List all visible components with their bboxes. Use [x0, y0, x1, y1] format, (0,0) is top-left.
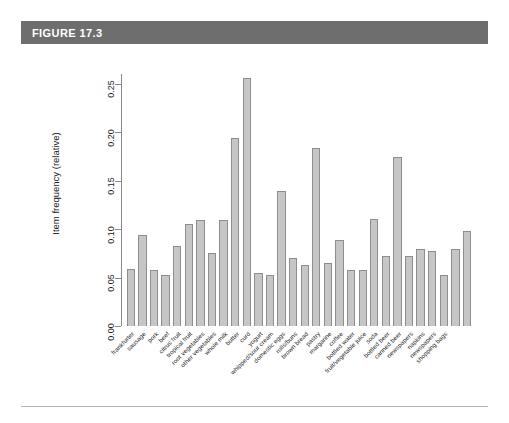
bar-slot: [171, 74, 183, 326]
plot-region: Item frequency (relative) 0.000.050.100.…: [21, 50, 488, 390]
x-label-slot: [461, 328, 473, 390]
bar[interactable]: [185, 224, 193, 326]
y-axis-tick-label: 0.10: [106, 226, 116, 244]
bar[interactable]: [428, 251, 436, 326]
bar-slot: [380, 74, 392, 326]
bar[interactable]: [243, 78, 251, 326]
bar-slot: [415, 74, 427, 326]
bar[interactable]: [405, 256, 413, 326]
bar[interactable]: [138, 235, 146, 326]
figure-header-bar: FIGURE 17.3: [21, 21, 488, 44]
x-label-slot: shopping bags: [438, 328, 450, 390]
bar-slot: [368, 74, 380, 326]
y-axis-line: [121, 74, 122, 326]
bar-slot: [334, 74, 346, 326]
bar[interactable]: [301, 265, 309, 326]
x-axis-labels: frankfurtersausageporkbeefcitrus fruittr…: [125, 328, 473, 390]
bar[interactable]: [312, 148, 320, 326]
bar[interactable]: [266, 275, 274, 326]
bar-slot: [403, 74, 415, 326]
item-frequency-chart: Item frequency (relative) 0.000.050.100.…: [21, 50, 488, 390]
bar-series: [125, 74, 473, 326]
x-label-slot: [450, 328, 462, 390]
y-axis-tick: 0.00: [115, 326, 121, 327]
bar[interactable]: [196, 220, 204, 326]
bar[interactable]: [382, 256, 390, 326]
bar[interactable]: [231, 138, 239, 326]
bar[interactable]: [370, 219, 378, 326]
bar-slot: [299, 74, 311, 326]
bar-slot: [148, 74, 160, 326]
bar-slot: [183, 74, 195, 326]
bar-slot: [322, 74, 334, 326]
y-axis-tick-label: 0.25: [106, 80, 116, 98]
y-axis-title: Item frequency (relative): [50, 84, 61, 284]
bar-slot: [438, 74, 450, 326]
bar-slot: [311, 74, 323, 326]
bar[interactable]: [173, 246, 181, 326]
y-axis-tick-label: 0.15: [106, 177, 116, 195]
figure-number-label: FIGURE 17.3: [21, 27, 102, 39]
bar[interactable]: [150, 270, 158, 326]
y-axis-tick: 0.25: [115, 84, 121, 85]
bar[interactable]: [393, 157, 401, 326]
bar[interactable]: [289, 258, 297, 326]
bar-slot: [392, 74, 404, 326]
y-axis-tick-label: 0.20: [106, 129, 116, 147]
bar-slot: [287, 74, 299, 326]
bar[interactable]: [161, 275, 169, 326]
bar[interactable]: [359, 270, 367, 326]
bar-slot: [426, 74, 438, 326]
y-axis-tick: 0.10: [115, 229, 121, 230]
bar-slot: [241, 74, 253, 326]
bar-slot: [218, 74, 230, 326]
y-axis-tick-label: 0.00: [106, 323, 116, 341]
bar[interactable]: [208, 253, 216, 326]
bar[interactable]: [254, 273, 262, 326]
y-axis-tick: 0.05: [115, 278, 121, 279]
bar[interactable]: [416, 249, 424, 326]
bar-slot: [125, 74, 137, 326]
y-axis-tick-label: 0.05: [106, 274, 116, 292]
bar[interactable]: [335, 240, 343, 326]
y-axis-tick: 0.20: [115, 132, 121, 133]
bar[interactable]: [219, 220, 227, 326]
bar-slot: [357, 74, 369, 326]
bar-slot: [206, 74, 218, 326]
bar-slot: [461, 74, 473, 326]
bar-slot: [450, 74, 462, 326]
y-axis-tick: 0.15: [115, 181, 121, 182]
bar-slot: [276, 74, 288, 326]
bar[interactable]: [440, 275, 448, 326]
bar-slot: [160, 74, 172, 326]
bar[interactable]: [127, 269, 135, 326]
bar-slot: [137, 74, 149, 326]
bar[interactable]: [324, 263, 332, 326]
bar-slot: [264, 74, 276, 326]
bar[interactable]: [347, 270, 355, 326]
bar-slot: [195, 74, 207, 326]
bottom-divider: [21, 406, 488, 407]
bar-slot: [253, 74, 265, 326]
bar[interactable]: [451, 249, 459, 326]
bar[interactable]: [463, 231, 471, 326]
bar[interactable]: [277, 191, 285, 326]
bar-slot: [229, 74, 241, 326]
bar-slot: [345, 74, 357, 326]
